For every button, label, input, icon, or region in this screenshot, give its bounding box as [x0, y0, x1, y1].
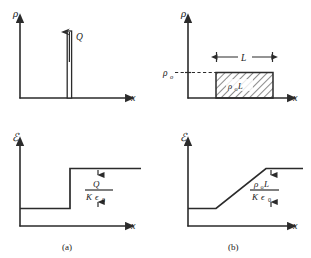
- ramp-field-curve: [188, 169, 303, 209]
- bottom-right-x-axis-label: x: [292, 220, 298, 231]
- bottom-right-y-axis-label: ℰ: [180, 131, 188, 143]
- ramp-fraction-denominator-subscript: 0: [268, 196, 271, 203]
- figure-canvas: ρ x Q ρ x ρ o L ρ o L: [0, 0, 311, 258]
- top-right-y-axis-label: ρ: [180, 7, 186, 19]
- caption-a: (a): [62, 242, 72, 252]
- top-right-x-axis-label: x: [292, 92, 298, 103]
- step-fraction-numerator: Q: [93, 179, 100, 189]
- top-left-y-axis-label: ρ: [12, 7, 18, 19]
- rho-naught-tick-label: ρ: [162, 68, 168, 78]
- step-fraction-denominator-epsilon: ϵ: [95, 192, 99, 202]
- slab-area-label-l: L: [237, 81, 243, 91]
- panel-bottom-left: ℰ x Q K ϵ 0 (a): [12, 131, 141, 252]
- bottom-left-x-axis-label: x: [130, 220, 136, 231]
- step-field-curve: [20, 169, 141, 209]
- panel-top-left: ρ x Q: [12, 7, 136, 103]
- ramp-fraction-denominator-k: K: [251, 192, 259, 202]
- physics-figure: ρ x Q ρ x ρ o L ρ o L: [0, 0, 311, 258]
- step-fraction-denominator-k: K: [85, 192, 93, 202]
- slab-area-label-rho: ρ: [227, 81, 232, 91]
- ramp-fraction-denominator-epsilon: ϵ: [261, 192, 265, 202]
- rho-naught-tick-subscript: o: [170, 73, 174, 80]
- charge-q-label: Q: [76, 32, 83, 42]
- panel-top-right: ρ x ρ o L ρ o L: [162, 7, 298, 103]
- panel-bottom-right: ℰ x ρ o L K ϵ 0 (b): [180, 131, 303, 252]
- slab-width-label: L: [240, 53, 246, 63]
- bottom-left-y-axis-label: ℰ: [12, 131, 20, 143]
- ramp-fraction-numerator-l: L: [263, 179, 269, 189]
- step-fraction-denominator-subscript: 0: [102, 196, 105, 203]
- caption-b: (b): [228, 242, 239, 252]
- ramp-fraction-numerator-rho: ρ: [253, 179, 259, 189]
- top-left-x-axis-label: x: [130, 92, 136, 103]
